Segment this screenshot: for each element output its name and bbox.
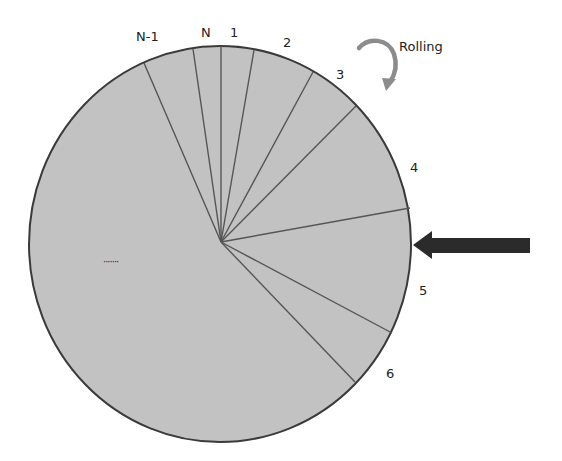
segment-label-1: 1 [230, 25, 238, 40]
segment-label-n: N [201, 25, 211, 40]
rolling-arrow-icon [359, 41, 396, 91]
segment-label-5: 5 [419, 283, 427, 298]
rolling-label: Rolling [399, 39, 443, 54]
rolling-wheel-diagram: ······· N-1 N 1 2 3 4 5 6 Rolling [0, 0, 562, 461]
segment-label-n-minus-1: N-1 [136, 29, 159, 44]
contact-pointer-arrow-icon [413, 231, 530, 259]
segment-label-2: 2 [283, 35, 291, 50]
segment-label-4: 4 [410, 160, 418, 175]
segment-label-3: 3 [336, 67, 344, 82]
wheel-disc [29, 46, 411, 442]
ellipsis-label: ······· [103, 256, 119, 267]
segment-label-6: 6 [386, 366, 394, 381]
